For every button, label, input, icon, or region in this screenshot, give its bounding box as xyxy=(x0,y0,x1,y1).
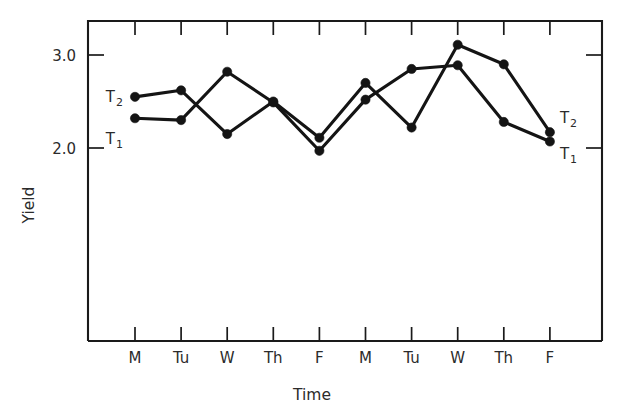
data-point-T2 xyxy=(223,129,232,138)
x-tick-label: Tu xyxy=(402,349,419,367)
data-point-T1 xyxy=(545,137,554,146)
x-tick-label: W xyxy=(220,349,235,367)
x-tick-label: M xyxy=(129,349,142,367)
y-axis-title: Yield xyxy=(20,187,38,225)
line-chart: MTuWThFMTuWThF 3.02.0 T2T1T2T1 Time Yiel… xyxy=(0,0,624,414)
data-point-T2 xyxy=(499,60,508,69)
x-tick-label: M xyxy=(359,349,372,367)
x-axis-title: Time xyxy=(292,386,331,404)
data-point-T2 xyxy=(453,40,462,49)
data-point-T2 xyxy=(361,78,370,87)
data-point-T2 xyxy=(545,128,554,137)
data-point-T1 xyxy=(453,61,462,70)
data-point-T2 xyxy=(315,133,324,142)
x-tick-label: F xyxy=(315,349,324,367)
data-point-T2 xyxy=(269,97,278,106)
data-point-T2 xyxy=(130,92,139,101)
data-point-T1 xyxy=(130,114,139,123)
data-point-T1 xyxy=(177,116,186,125)
y-tick-label: 2.0 xyxy=(52,140,76,158)
data-point-T1 xyxy=(407,64,416,73)
series-label-subscript: 2 xyxy=(116,96,123,109)
x-tick-label: W xyxy=(450,349,465,367)
series-label-subscript: 1 xyxy=(116,138,123,151)
series-label-subscript: 2 xyxy=(570,117,577,130)
x-tick-label: Th xyxy=(493,349,513,367)
chart-background xyxy=(0,0,624,414)
series-label-subscript: 1 xyxy=(570,153,577,166)
data-point-T1 xyxy=(361,95,370,104)
data-point-T2 xyxy=(407,123,416,132)
x-tick-label: Th xyxy=(263,349,283,367)
data-point-T1 xyxy=(499,117,508,126)
data-point-T2 xyxy=(177,86,186,95)
data-point-T1 xyxy=(223,67,232,76)
x-tick-label: Tu xyxy=(172,349,189,367)
y-tick-label: 3.0 xyxy=(52,47,76,65)
data-point-T1 xyxy=(315,146,324,155)
chart-container: MTuWThFMTuWThF 3.02.0 T2T1T2T1 Time Yiel… xyxy=(0,0,624,414)
x-tick-label: F xyxy=(546,349,555,367)
